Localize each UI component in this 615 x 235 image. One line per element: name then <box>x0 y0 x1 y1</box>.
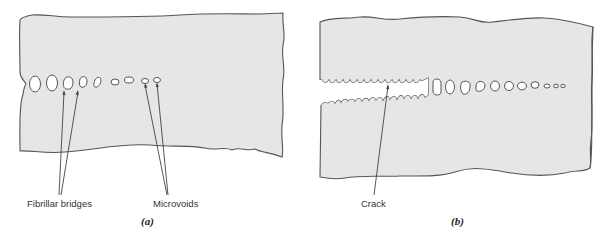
void <box>63 77 73 89</box>
void <box>142 79 149 84</box>
void <box>446 80 455 94</box>
caption-b: (b) <box>451 216 464 227</box>
label-crack: Crack <box>361 199 386 209</box>
void <box>505 82 514 91</box>
void <box>433 79 441 95</box>
craze-crack-diagram: Fibrillar bridges Microvoids (a) Crack (… <box>0 0 615 235</box>
void <box>461 81 471 94</box>
void <box>47 75 58 91</box>
void <box>476 81 485 91</box>
diagram-graphics <box>0 0 615 235</box>
panel-a-material <box>20 13 285 157</box>
void <box>491 81 500 91</box>
caption-a: (a) <box>141 216 154 227</box>
void <box>111 79 119 85</box>
void <box>554 84 559 88</box>
panel-a-graphic <box>20 13 285 195</box>
void <box>531 82 539 89</box>
label-fibrillar-bridges: Fibrillar bridges <box>27 199 92 209</box>
void <box>79 77 87 88</box>
label-microvoids: Microvoids <box>153 199 198 209</box>
void <box>561 84 565 87</box>
void <box>154 78 161 83</box>
void <box>30 76 41 92</box>
void <box>518 82 527 90</box>
void <box>544 84 550 88</box>
void <box>125 77 134 83</box>
panel-b-graphic <box>300 17 593 195</box>
